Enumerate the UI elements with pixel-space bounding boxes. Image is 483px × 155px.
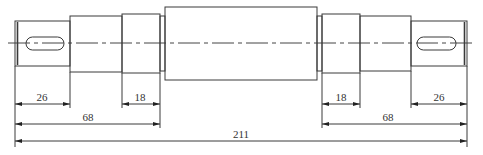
dim-label: 68 (83, 111, 95, 123)
dim-label: 211 (233, 128, 249, 140)
dim-right-end-length: 26 (411, 91, 467, 106)
dim-label: 68 (383, 111, 395, 123)
dim-left-bearing-length: 18 (122, 91, 160, 106)
left-step-2 (70, 16, 122, 72)
dim-label: 18 (336, 91, 348, 103)
dim-label: 18 (135, 91, 147, 103)
dim-label: 26 (434, 91, 446, 103)
shaft-drawing: 26 18 18 26 68 68 211 (0, 0, 483, 155)
dim-total-length: 211 (15, 128, 467, 143)
dim-label: 26 (37, 91, 49, 103)
dim-left-end-length: 26 (15, 91, 70, 106)
dim-left-overall-section: 68 (15, 111, 160, 126)
dim-right-bearing-length: 18 (322, 91, 360, 106)
dim-right-overall-section: 68 (322, 111, 467, 126)
